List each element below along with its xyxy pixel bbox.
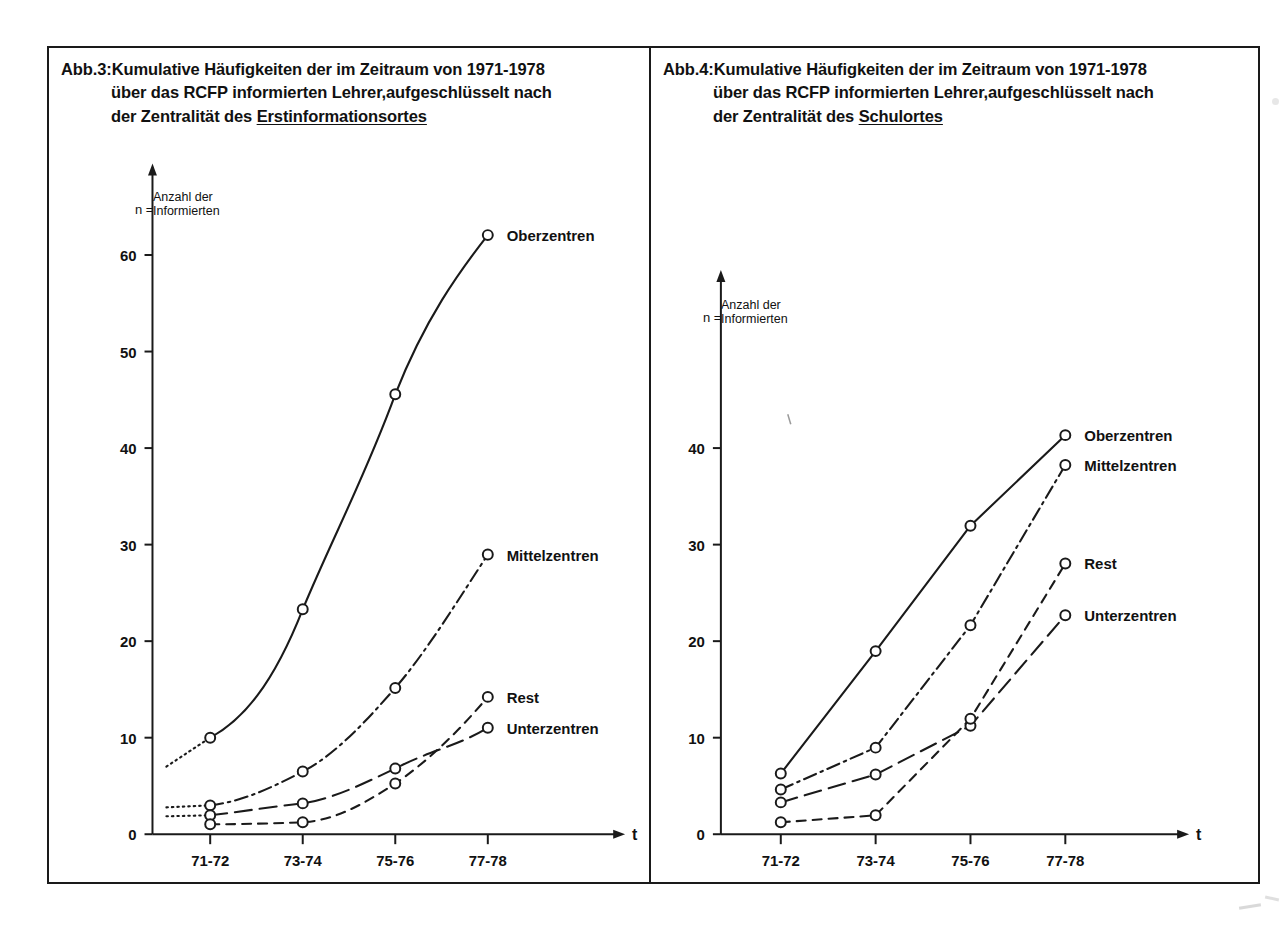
series-label-mittelzentren: Mittelzentren bbox=[1084, 457, 1176, 474]
data-point-marker bbox=[1060, 460, 1070, 470]
x-ticks-abb4: 71-72 73-74 75-76 77-78 bbox=[762, 834, 1085, 869]
series-label-rest: Rest bbox=[1084, 556, 1116, 573]
series-path-mittelzentren bbox=[781, 465, 1066, 789]
y-tick-label-60: 60 bbox=[120, 247, 137, 264]
scan-speckle bbox=[1265, 896, 1279, 902]
data-point-marker bbox=[390, 683, 400, 693]
y-ticks-abb3: 0 10 20 30 40 50 60 bbox=[120, 247, 153, 843]
data-point-marker bbox=[483, 723, 493, 733]
series-path-oberzentren bbox=[781, 435, 1066, 773]
scan-artifact-mark bbox=[788, 414, 791, 424]
series-mittelzentren-abb4: Mittelzentren bbox=[776, 457, 1177, 794]
y-axis-arrowhead bbox=[148, 163, 157, 175]
series-label-oberzentren: Oberzentren bbox=[1084, 427, 1172, 444]
data-point-marker bbox=[298, 767, 308, 777]
x-tick-label-0: 71-72 bbox=[762, 852, 800, 869]
x-axis-arrowhead bbox=[1177, 830, 1189, 839]
data-point-marker bbox=[871, 646, 881, 656]
y-tick-label-20: 20 bbox=[120, 633, 137, 650]
x-tick-label-2: 75-76 bbox=[376, 852, 414, 869]
scan-speckle bbox=[1272, 98, 1279, 105]
y-tick-label-40: 40 bbox=[688, 440, 705, 457]
data-point-marker bbox=[776, 797, 786, 807]
x-tick-label-3: 77-78 bbox=[1046, 852, 1084, 869]
y-tick-label-0: 0 bbox=[128, 826, 136, 843]
y-tick-label-10: 10 bbox=[120, 730, 137, 747]
y-tick-label-0: 0 bbox=[697, 826, 705, 843]
series-lead-in-oberzentren bbox=[166, 738, 210, 767]
data-point-marker bbox=[298, 798, 308, 808]
series-lead-in-mittelzentren bbox=[166, 805, 210, 807]
data-point-marker bbox=[965, 620, 975, 630]
series-label-rest: Rest bbox=[507, 689, 539, 706]
x-tick-label-1: 73-74 bbox=[856, 852, 895, 869]
x-ticks-abb3: 71-72 73-74 75-76 77-78 bbox=[191, 834, 507, 869]
x-axis-letter-label: t bbox=[1196, 826, 1202, 843]
data-point-marker bbox=[871, 743, 881, 753]
x-tick-label-1: 73-74 bbox=[284, 852, 323, 869]
series-unterzentren-abb4: Unterzentren bbox=[776, 607, 1177, 807]
x-axis-letter-label: t bbox=[632, 826, 638, 843]
data-point-marker bbox=[871, 810, 881, 820]
series-oberzentren-abb3: Oberzentren bbox=[166, 227, 594, 766]
series-rest-abb3: Rest bbox=[205, 689, 539, 829]
data-point-marker bbox=[483, 550, 493, 560]
data-point-marker bbox=[776, 784, 786, 794]
y-tick-label-30: 30 bbox=[688, 537, 705, 554]
axes-abb4: t bbox=[716, 270, 1202, 843]
axes-abb3: t bbox=[148, 163, 638, 843]
series-label-unterzentren: Unterzentren bbox=[507, 720, 599, 737]
series-path-unterzentren bbox=[781, 615, 1066, 802]
data-point-marker bbox=[205, 819, 215, 829]
series-path-oberzentren bbox=[210, 235, 488, 738]
data-point-marker bbox=[205, 733, 215, 743]
data-point-marker bbox=[776, 769, 786, 779]
figure-panel-abb3: Abb.3:Kumulative Häufigkeiten der im Zei… bbox=[49, 48, 651, 882]
x-axis-arrowhead bbox=[613, 830, 625, 839]
series-lead-in-unterzentren bbox=[166, 815, 210, 816]
series-unterzentren-abb3: Unterzentren bbox=[166, 720, 598, 821]
data-point-marker bbox=[965, 714, 975, 724]
figure-panel-abb4: Abb.4:Kumulative Häufigkeiten der im Zei… bbox=[651, 48, 1258, 882]
data-point-marker bbox=[483, 692, 493, 702]
data-point-marker bbox=[298, 817, 308, 827]
data-point-marker bbox=[1060, 610, 1070, 620]
x-tick-label-2: 75-76 bbox=[951, 852, 989, 869]
data-point-marker bbox=[1060, 430, 1070, 440]
series-rest-abb4: Rest bbox=[776, 556, 1117, 828]
series-path-rest bbox=[781, 564, 1066, 823]
scan-speckle bbox=[1239, 903, 1261, 909]
y-tick-label-10: 10 bbox=[688, 730, 705, 747]
series-label-unterzentren: Unterzentren bbox=[1084, 607, 1176, 624]
y-tick-label-50: 50 bbox=[120, 344, 137, 361]
data-point-marker bbox=[205, 800, 215, 810]
data-point-marker bbox=[776, 817, 786, 827]
data-point-marker bbox=[965, 521, 975, 531]
data-point-marker bbox=[390, 778, 400, 788]
x-tick-label-3: 77-78 bbox=[469, 852, 507, 869]
y-tick-label-20: 20 bbox=[688, 633, 705, 650]
data-point-marker bbox=[298, 604, 308, 614]
y-axis-arrowhead bbox=[716, 270, 725, 282]
series-label-mittelzentren: Mittelzentren bbox=[507, 547, 599, 564]
plot-area-abb4: t 0 10 20 30 40 71-72 73-74 bbox=[651, 48, 1258, 882]
data-point-marker bbox=[1060, 559, 1070, 569]
data-point-marker bbox=[390, 764, 400, 774]
series-path-rest bbox=[210, 697, 488, 824]
data-point-marker bbox=[871, 770, 881, 780]
series-path-mittelzentren bbox=[210, 555, 488, 806]
x-tick-label-0: 71-72 bbox=[191, 852, 229, 869]
plot-area-abb3: t 0 10 20 30 40 50 60 bbox=[49, 48, 649, 882]
data-point-marker bbox=[390, 389, 400, 399]
data-point-marker bbox=[483, 230, 493, 240]
y-tick-label-30: 30 bbox=[120, 537, 137, 554]
y-tick-label-40: 40 bbox=[120, 440, 137, 457]
series-label-oberzentren: Oberzentren bbox=[507, 227, 595, 244]
series-mittelzentren-abb3: Mittelzentren bbox=[166, 547, 598, 811]
figure-outer-frame: Abb.3:Kumulative Häufigkeiten der im Zei… bbox=[47, 46, 1260, 884]
y-ticks-abb4: 0 10 20 30 40 bbox=[688, 440, 721, 843]
